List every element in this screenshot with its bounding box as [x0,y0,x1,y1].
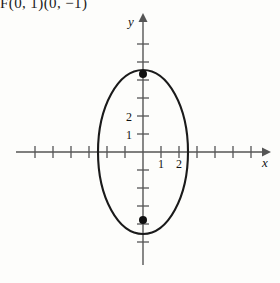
x-axis-label: x [261,155,268,170]
y-axis-label: y [126,14,134,29]
x-tick-label-1: 1 [158,157,164,171]
figure-root: F(0, 1)(0, −1) [0,0,280,283]
plot-svg: y x 1 2 1 2 [0,0,280,283]
y-tick-label-2: 2 [126,110,132,124]
focus-point-upper [139,70,147,78]
y-axis-arrow-icon [139,13,148,22]
ellipse-plot: y x 1 2 1 2 [0,0,280,283]
focus-point-lower [139,216,147,224]
y-tick-label-1: 1 [126,128,132,142]
x-tick-label-2: 2 [176,157,182,171]
